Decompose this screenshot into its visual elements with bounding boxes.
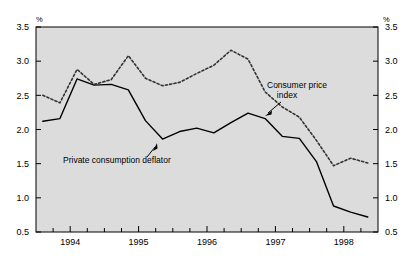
right-tick-label: 1.5 — [385, 159, 398, 169]
left-tick-label: 2.5 — [16, 91, 29, 101]
x-axis-tick-labels: 19941995199619971998 — [60, 237, 354, 247]
right-tick-label: 3.0 — [385, 56, 398, 66]
left-tick-label: 2.0 — [16, 125, 29, 135]
annotation-deflator-label: Private consumption deflator — [63, 155, 171, 165]
right-tick-label: 2.5 — [385, 91, 398, 101]
x-tick-label: 1996 — [197, 237, 217, 247]
left-tick-label: 1.5 — [16, 159, 29, 169]
x-tick-label: 1995 — [129, 237, 149, 247]
left-axis-unit-label: % — [36, 15, 43, 24]
left-tick-label: 3.5 — [16, 22, 29, 32]
left-tick-label: 3.0 — [16, 56, 29, 66]
left-tick-label: 1.0 — [16, 193, 29, 203]
right-axis-unit-label: % — [383, 15, 390, 24]
x-tick-label: 1998 — [334, 237, 354, 247]
annotation-cpi-line2: index — [277, 90, 298, 100]
right-tick-label: 1.0 — [385, 193, 398, 203]
left-axis-tick-labels: 0.51.01.52.02.53.03.5 — [16, 22, 29, 237]
right-axis-tick-labels: 0.51.01.52.02.53.03.5 — [385, 22, 398, 237]
annotation-cpi-line1: Consumer price — [267, 80, 327, 90]
right-tick-label: 0.5 — [385, 227, 398, 237]
x-tick-label: 1997 — [265, 237, 285, 247]
right-tick-label: 2.0 — [385, 125, 398, 135]
chart-container: 0.51.01.52.02.53.03.5 0.51.01.52.02.53.0… — [0, 0, 414, 269]
x-tick-label: 1994 — [60, 237, 80, 247]
line-chart: 0.51.01.52.02.53.03.5 0.51.01.52.02.53.0… — [0, 0, 414, 269]
plot-area-background — [36, 27, 378, 232]
left-tick-label: 0.5 — [16, 227, 29, 237]
